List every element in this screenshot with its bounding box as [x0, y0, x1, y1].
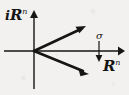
real-axis-label: Rn: [103, 58, 120, 74]
lower-vector-shaft: [34, 51, 83, 71]
imaginary-axis-label-superscript: n: [22, 7, 27, 16]
real-axis-label-base: R: [103, 57, 115, 75]
upper-vector-shaft: [34, 29, 81, 51]
vector-diagram-figure: iRn Rn σ: [0, 0, 129, 95]
sigma-tick-arrowhead: [96, 55, 103, 62]
vertical-axis-arrowhead: [30, 10, 38, 18]
imaginary-axis-label: iRn: [5, 7, 27, 23]
real-axis-label-superscript: n: [115, 58, 120, 67]
imaginary-axis-label-base: R: [10, 6, 22, 24]
sigma-label: σ: [96, 31, 103, 41]
horizontal-axis-arrowhead: [118, 47, 125, 56]
